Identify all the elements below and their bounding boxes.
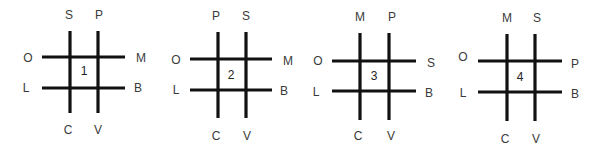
label-top-right: P	[388, 10, 396, 24]
diagram-number: 1	[81, 64, 88, 78]
diagram-number: 3	[371, 69, 378, 83]
label-bottom-right: V	[94, 123, 102, 137]
grid-diagram-1: 1SPOMLBCV	[23, 8, 146, 137]
label-right-top: M	[136, 51, 146, 65]
label-left-top: O	[23, 51, 32, 65]
label-left-bottom: L	[313, 85, 320, 99]
label-top-right: S	[242, 9, 250, 23]
label-right-bottom: B	[571, 87, 579, 101]
label-bottom-right: V	[243, 129, 251, 143]
label-bottom-right: V	[532, 132, 540, 146]
label-right-bottom: B	[280, 84, 288, 98]
label-left-top: O	[171, 53, 180, 67]
label-bottom-left: C	[64, 123, 73, 137]
label-bottom-right: V	[387, 129, 395, 143]
grid-diagram-3: 3MPOSLBCV	[313, 10, 435, 143]
diagram-number: 4	[517, 70, 524, 84]
label-left-bottom: L	[23, 81, 30, 95]
label-top-right: S	[533, 11, 541, 25]
label-right-bottom: B	[425, 86, 433, 100]
label-top-left: M	[502, 11, 512, 25]
label-right-top: M	[283, 54, 293, 68]
label-top-right: P	[95, 8, 103, 22]
label-right-top: P	[571, 57, 579, 71]
label-left-bottom: L	[173, 83, 180, 97]
label-left-bottom: L	[460, 86, 467, 100]
grid-diagram-2: 2PSOMLBCV	[171, 9, 293, 143]
label-left-top: O	[313, 54, 322, 68]
label-right-top: S	[427, 56, 435, 70]
label-bottom-left: C	[212, 129, 221, 143]
label-top-left: S	[65, 8, 73, 22]
label-top-left: P	[212, 9, 220, 23]
grid-diagram-4: 4MSOPLBCV	[458, 11, 579, 146]
grid-diagrams-canvas: 1SPOMLBCV2PSOMLBCV3MPOSLBCV4MSOPLBCV	[0, 0, 599, 151]
label-bottom-left: C	[354, 129, 363, 143]
label-right-bottom: B	[134, 81, 142, 95]
label-bottom-left: C	[501, 132, 510, 146]
label-left-top: O	[458, 50, 467, 64]
label-top-left: M	[355, 10, 365, 24]
diagram-number: 2	[228, 68, 235, 82]
